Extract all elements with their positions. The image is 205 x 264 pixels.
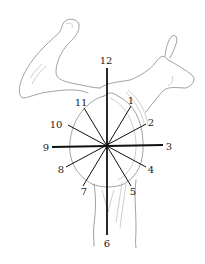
clock-lines <box>52 68 163 235</box>
label-4: 4 <box>148 164 154 175</box>
label-5: 5 <box>130 186 136 197</box>
label-12: 12 <box>100 55 113 66</box>
label-7: 7 <box>81 186 87 197</box>
label-10: 10 <box>50 119 63 130</box>
label-9: 9 <box>43 142 49 153</box>
label-6: 6 <box>104 238 110 249</box>
label-3: 3 <box>166 141 172 152</box>
glenoid-clock-diagram: 12 1 2 3 4 5 6 7 8 9 10 11 <box>0 0 205 264</box>
label-1: 1 <box>128 95 134 106</box>
label-2: 2 <box>148 117 154 128</box>
label-11: 11 <box>75 97 88 108</box>
label-8: 8 <box>58 164 64 175</box>
center-point <box>105 144 108 147</box>
